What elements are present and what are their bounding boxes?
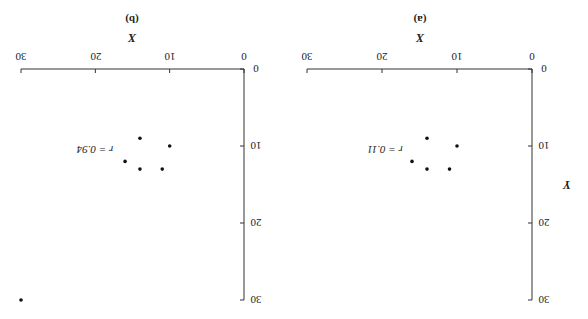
data-point (123, 160, 127, 164)
data-point (455, 144, 459, 148)
x-axis-title-b: X (127, 31, 137, 45)
panel-label-b: (b) (125, 13, 139, 26)
panel-b: 0 10 20 30 0 10 20 30 X (b) r = 0.94 (15, 13, 262, 306)
data-point (160, 167, 164, 171)
ticks-b (21, 69, 244, 300)
data-point (138, 137, 142, 141)
data-point (19, 298, 23, 302)
ticks-a (307, 69, 532, 300)
x-tick-0-a: 0 (529, 51, 535, 63)
y-tick-30-b: 30 (250, 294, 262, 306)
correlation-label-b: r = 0.94 (76, 144, 113, 156)
x-tick-0-b: 0 (241, 51, 247, 63)
points-a (410, 137, 459, 171)
correlation-label-a: r = 0.11 (367, 144, 403, 156)
y-tick-10-b: 10 (250, 140, 262, 152)
y-tick-30-a: 30 (538, 294, 550, 306)
y-tick-10-a: 10 (538, 140, 550, 152)
data-point (425, 137, 429, 141)
x-tick-30-a: 30 (301, 51, 313, 63)
data-point (448, 167, 452, 171)
x-tick-30-b: 30 (15, 51, 27, 63)
y-tick-0-a: 0 (541, 63, 547, 75)
panel-label-a: (a) (413, 13, 426, 26)
y-tick-0-b: 0 (253, 63, 259, 75)
y-tick-20-b: 20 (250, 217, 262, 229)
x-tick-20-a: 20 (376, 51, 388, 63)
x-tick-10-a: 10 (451, 51, 463, 63)
data-point (425, 167, 429, 171)
data-point (138, 167, 142, 171)
y-tick-20-a: 20 (538, 217, 550, 229)
scatter-figure: 0 10 20 30 0 10 20 30 X (a) Y r = 0.11 0… (0, 0, 588, 319)
figure: 0 10 20 30 0 10 20 30 X (a) Y r = 0.11 0… (0, 0, 588, 319)
x-axis-title-a: X (415, 31, 425, 45)
data-point (410, 160, 414, 164)
x-tick-20-b: 20 (90, 51, 102, 63)
y-axis-title-a: Y (562, 178, 571, 192)
points-b (19, 137, 171, 302)
panel-a: 0 10 20 30 0 10 20 30 X (a) Y r = 0.11 (301, 13, 571, 306)
x-tick-10-b: 10 (164, 51, 176, 63)
data-point (168, 144, 172, 148)
